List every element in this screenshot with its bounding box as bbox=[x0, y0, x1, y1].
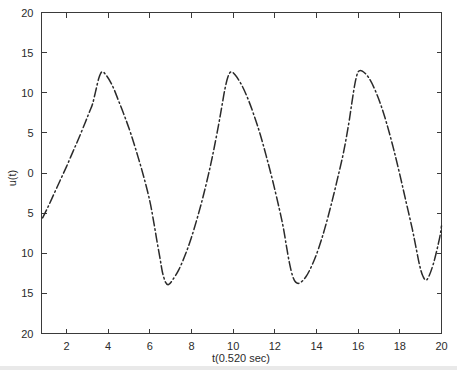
scan-border-bottom bbox=[0, 366, 457, 370]
line-chart: 201510505101520 2468101214161820 t(0.520… bbox=[0, 0, 457, 370]
x-axis-ticks: 2468101214161820 bbox=[63, 13, 447, 352]
data-series-u-of-t bbox=[43, 70, 442, 284]
y-tick-label: 5 bbox=[27, 207, 33, 219]
x-tick-label: 18 bbox=[394, 340, 406, 352]
y-axis-label: u(t) bbox=[6, 170, 18, 187]
x-tick-label: 2 bbox=[63, 340, 69, 352]
y-tick-label: 15 bbox=[21, 287, 33, 299]
figure-container: 201510505101520 2468101214161820 t(0.520… bbox=[0, 0, 457, 370]
x-tick-label: 4 bbox=[105, 340, 111, 352]
y-tick-label: 20 bbox=[21, 328, 33, 340]
x-tick-label: 8 bbox=[188, 340, 194, 352]
y-tick-label: 15 bbox=[21, 47, 33, 59]
x-tick-label: 20 bbox=[435, 340, 447, 352]
y-tick-label: 10 bbox=[21, 247, 33, 259]
plot-frame bbox=[42, 13, 442, 334]
x-tick-label: 14 bbox=[310, 340, 322, 352]
x-tick-label: 10 bbox=[227, 340, 239, 352]
x-axis-label: t(0.520 sec) bbox=[212, 352, 270, 364]
x-tick-label: 6 bbox=[147, 340, 153, 352]
y-tick-label: 0 bbox=[27, 167, 33, 179]
y-tick-label: 20 bbox=[21, 7, 33, 19]
x-tick-label: 12 bbox=[269, 340, 281, 352]
x-tick-label: 16 bbox=[352, 340, 364, 352]
y-axis-ticks: 201510505101520 bbox=[21, 7, 441, 340]
y-tick-label: 5 bbox=[27, 127, 33, 139]
y-tick-label: 10 bbox=[21, 87, 33, 99]
